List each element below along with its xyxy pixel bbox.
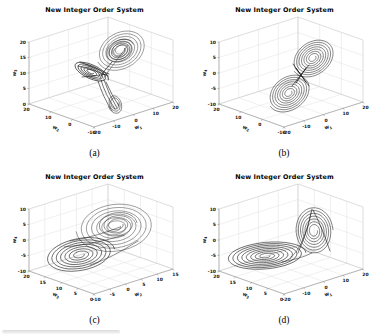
plot-canvas-c: New Integer Order System 1050-5-10201510… bbox=[0, 167, 189, 315]
tick-label: 10 bbox=[20, 71, 26, 76]
tick-label: 5 bbox=[23, 86, 26, 91]
plot-title-b: New Integer Order System bbox=[235, 6, 334, 14]
tick-label: 0 bbox=[68, 122, 71, 127]
tick-label: 0 bbox=[127, 287, 130, 292]
attractor-path bbox=[296, 208, 333, 253]
subplot-caption-b: (b) bbox=[278, 148, 289, 158]
tick-label: 20 bbox=[362, 272, 368, 277]
tick-label: -10 bbox=[92, 297, 100, 302]
subplot-b: New Integer Order System 1050-5-1020100-… bbox=[189, 0, 379, 167]
tick-label: 5 bbox=[142, 282, 145, 287]
z-axis-label: w4 bbox=[201, 236, 208, 244]
y-axis-label: w3 bbox=[241, 291, 251, 300]
attractor-trajectory bbox=[75, 31, 144, 113]
tick-label: 0 bbox=[324, 285, 327, 290]
tick-label: -10 bbox=[302, 124, 310, 129]
plot-canvas-d: New Integer Order System 1050-5-10201510… bbox=[190, 167, 379, 315]
tick-label: 20 bbox=[213, 274, 219, 279]
figure-page: New Integer Order System 2015105020100-1… bbox=[0, 0, 379, 334]
axes: 1050-5-1020151050-20-1001020w4w3w1 bbox=[201, 207, 369, 302]
tick-label: 5 bbox=[23, 222, 26, 227]
cropped-caption-remnant bbox=[2, 330, 120, 334]
tick-label: 0 bbox=[212, 71, 215, 76]
tick-label: 0 bbox=[212, 238, 215, 243]
plot-title-c: New Integer Order System bbox=[45, 173, 144, 181]
tick-label: -10 bbox=[207, 102, 215, 107]
tick-label: 15 bbox=[229, 280, 235, 285]
attractor-trajectory bbox=[48, 204, 152, 271]
tick-label: 0 bbox=[23, 238, 26, 243]
tick-label: -10 bbox=[207, 269, 215, 274]
tick-label: 0 bbox=[134, 118, 137, 123]
tick-label: 10 bbox=[45, 115, 51, 120]
tick-label: 20 bbox=[362, 105, 368, 110]
grid-lines bbox=[219, 184, 363, 294]
tick-label: 10 bbox=[342, 111, 348, 116]
axes: 2015105020100-10-20-1001020w3w2w1 bbox=[11, 40, 179, 135]
x-axis-label: w1 bbox=[323, 290, 332, 299]
tick-label: 10 bbox=[157, 277, 163, 282]
tick-label: 20 bbox=[23, 274, 29, 279]
tick-label: 10 bbox=[209, 207, 215, 212]
subplot-caption-c: (c) bbox=[89, 315, 100, 325]
tick-label: -5 bbox=[211, 253, 216, 258]
subplot-grid: New Integer Order System 2015105020100-1… bbox=[0, 0, 379, 334]
tick-label: -5 bbox=[21, 253, 26, 258]
subplot-caption-a: (a) bbox=[89, 148, 100, 158]
tick-label: 10 bbox=[209, 40, 215, 45]
x-axis-label: w1 bbox=[323, 123, 332, 132]
z-axis-label: w4 bbox=[11, 236, 18, 244]
tick-label: 20 bbox=[20, 40, 26, 45]
tick-label: -10 bbox=[18, 269, 26, 274]
tick-label: 10 bbox=[20, 207, 26, 212]
tick-label: 10 bbox=[235, 115, 241, 120]
tick-label: 10 bbox=[245, 286, 251, 291]
subplot-c: New Integer Order System 1050-5-10201510… bbox=[0, 167, 189, 334]
y-axis-label: w3 bbox=[51, 291, 61, 300]
x-axis-label: w2 bbox=[134, 290, 143, 299]
tick-label: 20 bbox=[213, 107, 219, 112]
subplot-a: New Integer Order System 2015105020100-1… bbox=[0, 0, 189, 167]
tick-label: -10 bbox=[112, 124, 120, 129]
axes: 1050-5-1020100-10-20-1001020w4w2w1 bbox=[201, 40, 369, 135]
tick-label: 5 bbox=[263, 291, 266, 296]
attractor-trajectory bbox=[228, 208, 333, 269]
tick-label: -5 bbox=[211, 86, 216, 91]
tick-label: -20 bbox=[92, 130, 100, 135]
tick-label: 5 bbox=[212, 222, 215, 227]
tick-label: 10 bbox=[56, 286, 62, 291]
z-axis-label: w3 bbox=[11, 69, 18, 77]
tick-label: -20 bbox=[282, 130, 290, 135]
tick-label: 20 bbox=[23, 107, 29, 112]
y-axis-label: w2 bbox=[51, 124, 61, 133]
axes: 1050-5-1020151050-10-5051015w4w3w2 bbox=[11, 207, 179, 302]
tick-label: 10 bbox=[153, 111, 159, 116]
tick-label: -5 bbox=[110, 292, 115, 297]
tick-label: -20 bbox=[282, 297, 290, 302]
subplot-caption-d: (d) bbox=[278, 315, 289, 325]
tick-label: 20 bbox=[172, 105, 178, 110]
plot-canvas-a: New Integer Order System 2015105020100-1… bbox=[0, 0, 189, 148]
plot-canvas-b: New Integer Order System 1050-5-1020100-… bbox=[190, 0, 379, 148]
attractor-path bbox=[294, 40, 333, 77]
y-axis-label: w2 bbox=[241, 124, 251, 133]
tick-label: -10 bbox=[302, 291, 310, 296]
tick-label: 0 bbox=[258, 122, 261, 127]
plot-title-a: New Integer Order System bbox=[45, 6, 144, 14]
grid-lines bbox=[29, 17, 173, 127]
plot-title-d: New Integer Order System bbox=[235, 173, 334, 181]
tick-label: 15 bbox=[172, 272, 178, 277]
tick-label: 5 bbox=[212, 55, 215, 60]
tick-label: 15 bbox=[20, 55, 26, 60]
tick-label: 5 bbox=[74, 291, 77, 296]
tick-label: 15 bbox=[40, 280, 46, 285]
tick-label: 10 bbox=[342, 278, 348, 283]
tick-label: 0 bbox=[23, 102, 26, 107]
tick-label: 0 bbox=[324, 118, 327, 123]
z-axis-label: w4 bbox=[201, 69, 208, 77]
x-axis-label: w1 bbox=[134, 123, 143, 132]
subplot-d: New Integer Order System 1050-5-10201510… bbox=[189, 167, 379, 334]
